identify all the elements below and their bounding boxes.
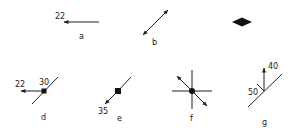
value-label: 50	[248, 88, 258, 97]
figure-label: b	[152, 38, 157, 47]
value-label: 30	[39, 78, 49, 87]
figure-label: e	[117, 114, 122, 123]
figure-a: 22 a	[55, 12, 99, 41]
value-label: 40	[268, 62, 278, 71]
diamond-icon	[232, 18, 252, 27]
figure-e: 35 e	[98, 77, 131, 123]
figure-g: 40 50 g	[248, 62, 282, 127]
symbol-diagram: 22 a b 22 30 d 35 e f 40	[0, 0, 289, 131]
figure-c	[232, 18, 252, 27]
value-label: 35	[98, 107, 108, 116]
figure-b: b	[143, 10, 168, 47]
center-dot-icon	[189, 88, 195, 94]
point-square-icon	[42, 89, 47, 94]
point-square-icon	[115, 88, 121, 94]
value-label: 22	[55, 12, 65, 21]
figure-label: d	[41, 113, 46, 122]
figure-label: g	[262, 118, 267, 127]
figure-label: a	[79, 32, 84, 41]
figure-label: f	[190, 114, 193, 123]
figure-d: 22 30 d	[15, 77, 58, 122]
double-arrow-icon	[143, 10, 168, 35]
value-label: 22	[15, 80, 25, 89]
figure-f: f	[172, 70, 212, 123]
